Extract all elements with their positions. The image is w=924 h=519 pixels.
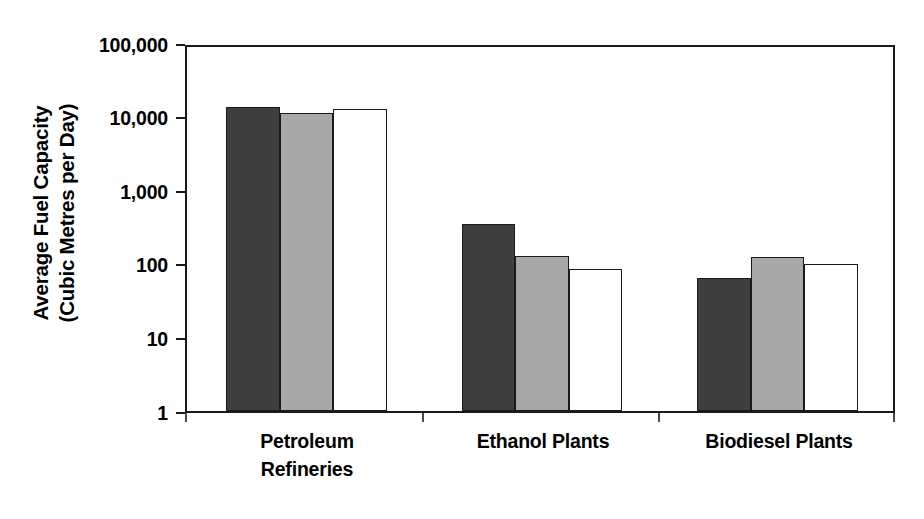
y-tick-label-1: 1 [157,402,168,425]
x-category-label-line-1: Ethanol Plants [444,428,642,456]
plot-area [185,45,895,413]
y-tick-mark-10 [176,338,185,340]
bar-ethanol-plants-series-1 [462,224,516,411]
x-category-label-line-2: Refineries [208,456,406,484]
bar-petroleum-refineries-series-2 [280,113,334,411]
y-tick-label-1000: 1,000 [120,181,168,204]
y-axis-title-line-1: Average Fuel Capacity [28,106,54,321]
y-tick-mark-10000 [176,117,185,119]
x-tick-mark-1 [422,413,424,422]
y-tick-mark-1 [176,412,185,414]
y-tick-mark-1000 [176,191,185,193]
y-tick-label-100000: 100,000 [99,34,168,57]
bar-petroleum-refineries-series-3 [333,109,387,411]
x-category-label-ethanol-plants: Ethanol Plants [444,428,642,456]
bar-ethanol-plants-series-2 [515,256,569,411]
x-tick-mark-2 [658,413,660,422]
x-category-label-biodiesel-plants: Biodiesel Plants [680,428,878,456]
bar-biodiesel-plants-series-1 [697,278,751,411]
y-tick-mark-100000 [176,44,185,46]
x-category-label-line-1: Petroleum [208,428,406,456]
x-tick-mark-left [185,413,187,422]
x-category-label-line-1: Biodiesel Plants [680,428,878,456]
chart-figure: Average Fuel Capacity (Cubic Metres per … [0,0,924,519]
bar-biodiesel-plants-series-2 [751,257,805,411]
bar-ethanol-plants-series-3 [569,269,623,411]
y-tick-label-10: 10 [147,328,168,351]
y-tick-mark-100 [176,264,185,266]
y-tick-label-10000: 10,000 [110,107,168,130]
bar-petroleum-refineries-series-1 [226,107,280,411]
y-tick-label-100: 100 [136,254,168,277]
x-category-label-petroleum-refineries: Petroleum Refineries [208,428,406,483]
y-axis-tick-labels: 100,000 10,000 1,000 100 10 1 [58,0,168,519]
x-tick-mark-right [893,413,895,422]
bar-biodiesel-plants-series-3 [804,264,858,411]
